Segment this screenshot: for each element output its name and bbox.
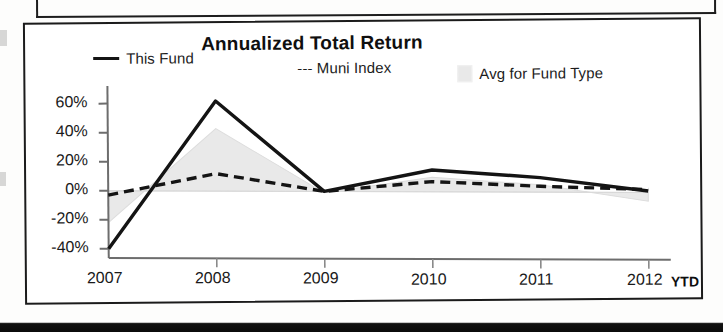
x-tick-label: 2012 <box>627 271 663 289</box>
y-tick-label: 40% <box>30 122 88 140</box>
scanner-bottom-band <box>0 320 723 332</box>
y-tick-label: -40% <box>31 238 89 256</box>
annualized-total-return-chart-panel: Annualized Total Return This Fund --- Mu… <box>23 17 703 304</box>
x-tick-label: 2008 <box>195 269 231 287</box>
plot-area <box>25 19 701 302</box>
scan-artifact-mid <box>0 172 6 186</box>
ytd-annotation: YTD <box>671 273 699 289</box>
y-axis-line <box>107 86 108 258</box>
scan-artifact-top <box>0 30 7 46</box>
x-tick-label: 2007 <box>87 269 123 287</box>
x-tick-label: 2010 <box>411 270 447 288</box>
x-axis-line <box>109 254 671 265</box>
x-tick-label: 2009 <box>303 270 339 288</box>
x-tick-label: 2011 <box>519 270 554 288</box>
y-tick-label: 0% <box>30 180 88 198</box>
scanned-page: Annualized Total Return This Fund --- Mu… <box>0 0 723 332</box>
y-tick-label: -20% <box>30 209 88 227</box>
previous-section-box <box>36 0 716 18</box>
y-tick-label: 20% <box>30 151 88 169</box>
y-tick-label: 60% <box>29 93 87 111</box>
